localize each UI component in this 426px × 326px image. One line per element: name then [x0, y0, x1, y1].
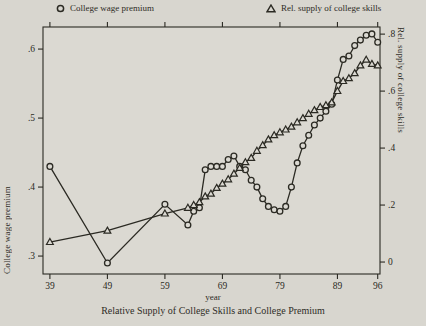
chart-plot: .3.4.5.60.2.4.6.839495969798996: [0, 0, 426, 326]
svg-text:.6: .6: [388, 86, 395, 96]
svg-text:.6: .6: [28, 44, 35, 54]
svg-text:.2: .2: [388, 200, 395, 210]
svg-text:0: 0: [388, 257, 393, 267]
svg-text:59: 59: [160, 281, 170, 291]
svg-text:.4: .4: [28, 182, 35, 192]
svg-text:39: 39: [45, 281, 55, 291]
svg-text:.8: .8: [388, 29, 395, 39]
svg-text:96: 96: [373, 281, 383, 291]
x-axis-title: year: [0, 292, 426, 302]
svg-text:89: 89: [333, 281, 343, 291]
svg-text:79: 79: [275, 281, 285, 291]
right-axis-title: Rel. supply of college skills: [396, 27, 406, 274]
svg-text:.4: .4: [388, 143, 395, 153]
left-axis-title: College wage premium: [2, 27, 12, 274]
chart-page: College wage premium Rel. supply of coll…: [0, 0, 426, 326]
svg-text:49: 49: [103, 281, 113, 291]
svg-text:.5: .5: [28, 113, 35, 123]
svg-text:.3: .3: [28, 251, 35, 261]
chart-caption: Relative Supply of College Skills and Co…: [0, 305, 426, 316]
svg-text:69: 69: [218, 281, 228, 291]
